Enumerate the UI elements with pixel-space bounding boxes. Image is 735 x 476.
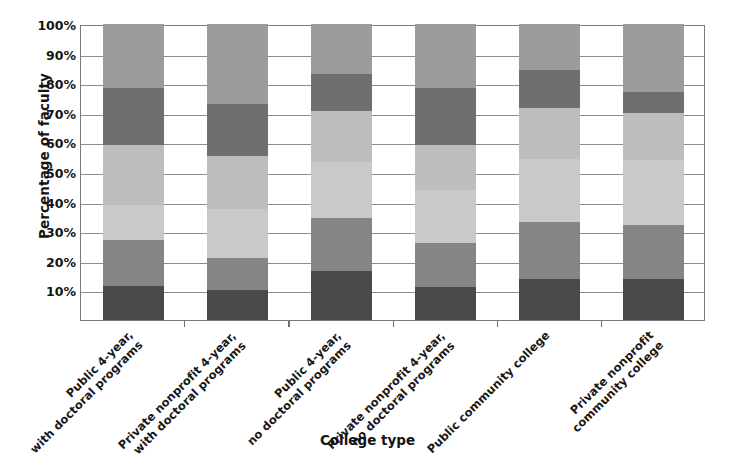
x-axis-category-label: Private nonprofitcommunity college	[560, 329, 666, 435]
x-axis-label-line: community college	[569, 338, 666, 435]
bar-segment[interactable]	[103, 88, 164, 146]
stacked-bar-chart: Percentage of faculty 10%20%30%40%50%60%…	[0, 0, 735, 476]
bar-segment[interactable]	[623, 24, 684, 92]
y-axis-tick-label: 60%	[22, 136, 76, 151]
bar-segment[interactable]	[103, 240, 164, 286]
bar-segment[interactable]	[311, 74, 372, 111]
bar-segment[interactable]	[623, 92, 684, 113]
y-axis-tick-label: 100%	[22, 18, 76, 33]
bar-group[interactable]	[519, 26, 580, 320]
y-axis-tick-label: 20%	[22, 254, 76, 269]
bar-group[interactable]	[207, 26, 268, 320]
bar-group[interactable]	[623, 26, 684, 320]
bar-segment[interactable]	[623, 113, 684, 160]
y-axis-tick-label: 90%	[22, 47, 76, 62]
bar-segment[interactable]	[415, 24, 476, 88]
bar-segment[interactable]	[415, 190, 476, 243]
bar-segment[interactable]	[519, 70, 580, 108]
y-axis-tick-labels: 10%20%30%40%50%60%70%80%90%100%	[22, 25, 76, 321]
bar-segment[interactable]	[311, 111, 372, 161]
x-axis-label-line: Public 4-year,	[235, 329, 344, 438]
bar-segment[interactable]	[623, 225, 684, 278]
y-axis-tick-label: 30%	[22, 225, 76, 240]
x-axis-category-labels: Public 4-year,with doctoral programsPriv…	[0, 321, 735, 431]
bar-segment[interactable]	[415, 243, 476, 287]
bar-group[interactable]	[415, 26, 476, 320]
bars-layer	[81, 26, 704, 320]
bar-segment[interactable]	[207, 209, 268, 258]
bar-segment[interactable]	[103, 145, 164, 204]
bar-segment[interactable]	[103, 286, 164, 320]
x-axis-label-line: Public 4-year,	[18, 329, 136, 447]
bar-segment[interactable]	[311, 162, 372, 218]
bar-segment[interactable]	[103, 24, 164, 88]
x-axis-label-line: Private nonprofit	[560, 329, 657, 426]
bar-segment[interactable]	[207, 24, 268, 104]
y-axis-tick-label: 80%	[22, 77, 76, 92]
y-axis-tick-label: 50%	[22, 166, 76, 181]
bar-segment[interactable]	[207, 156, 268, 209]
plot-area	[80, 25, 705, 321]
bar-segment[interactable]	[623, 160, 684, 225]
bar-segment[interactable]	[311, 24, 372, 74]
bar-segment[interactable]	[415, 287, 476, 320]
bar-segment[interactable]	[311, 271, 372, 320]
y-axis-tick-label: 70%	[22, 106, 76, 121]
bar-segment[interactable]	[311, 218, 372, 271]
y-axis-tick-label: 10%	[22, 284, 76, 299]
bar-segment[interactable]	[519, 108, 580, 158]
y-axis-tick-label: 40%	[22, 195, 76, 210]
bar-segment[interactable]	[103, 205, 164, 241]
bar-group[interactable]	[103, 26, 164, 320]
bar-segment[interactable]	[519, 222, 580, 278]
bar-segment[interactable]	[207, 290, 268, 320]
bar-group[interactable]	[311, 26, 372, 320]
bar-segment[interactable]	[519, 24, 580, 70]
bar-segment[interactable]	[519, 159, 580, 223]
x-axis-title: College type	[0, 432, 735, 448]
bar-segment[interactable]	[207, 104, 268, 156]
bar-segment[interactable]	[519, 279, 580, 320]
bar-segment[interactable]	[415, 145, 476, 189]
bar-segment[interactable]	[415, 88, 476, 146]
bar-segment[interactable]	[207, 258, 268, 291]
bar-segment[interactable]	[623, 279, 684, 320]
